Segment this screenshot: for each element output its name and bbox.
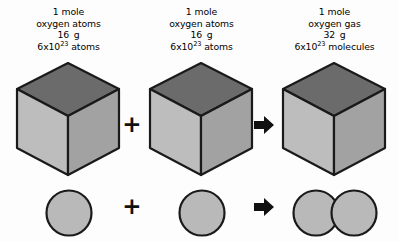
label-mass-unit: g <box>340 29 346 40</box>
label-mass-value: 16 <box>57 29 69 40</box>
label-count-coefficient: 6x10 <box>170 41 193 52</box>
label-count-unit: molecules <box>328 41 374 52</box>
product-column: 1 mole oxygen gas 32 g 6x1023 molecules <box>272 0 397 242</box>
mole-cube-oxygen-gas <box>279 60 389 178</box>
label-line-substance: oxygen gas <box>272 18 397 30</box>
label-line-amount: 1 mole <box>272 6 397 18</box>
label-count-coefficient: 6x10 <box>294 41 317 52</box>
mole-cube-oxygen-atoms-1 <box>13 60 123 178</box>
label-line-mass: 32 g <box>272 29 397 41</box>
label-line-mass: 16 g <box>6 29 131 41</box>
label-line-count: 6x1023 atoms <box>6 41 131 55</box>
label-count-coefficient: 6x10 <box>37 41 60 52</box>
particle-group-1 <box>6 188 131 240</box>
reactant-column-1: 1 mole oxygen atoms 16 g 6x1023 atoms <box>6 0 131 242</box>
label-line-count: 6x1023 atoms <box>139 41 264 55</box>
plus-sign-top: + <box>118 110 146 138</box>
label-mass-unit: g <box>207 29 213 40</box>
particle-group-2 <box>139 188 264 240</box>
label-count-exponent: 23 <box>193 40 201 48</box>
mole-label-1: 1 mole oxygen atoms 16 g 6x1023 atoms <box>6 6 131 54</box>
label-line-amount: 1 mole <box>6 6 131 18</box>
label-line-substance: oxygen atoms <box>6 18 131 30</box>
label-count-exponent: 23 <box>60 40 68 48</box>
mole-label-2: 1 mole oxygen atoms 16 g 6x1023 atoms <box>139 6 264 54</box>
label-count-unit: atoms <box>71 41 99 52</box>
label-line-substance: oxygen atoms <box>139 18 264 30</box>
label-line-mass: 16 g <box>139 29 264 41</box>
plus-sign-bottom: + <box>118 192 146 220</box>
label-line-amount: 1 mole <box>139 6 264 18</box>
arrow-right-icon-bottom <box>250 192 278 217</box>
mole-cube-oxygen-atoms-2 <box>146 60 256 178</box>
reactant-column-2: 1 mole oxygen atoms 16 g 6x1023 atoms <box>139 0 264 242</box>
mole-label-3: 1 mole oxygen gas 32 g 6x1023 molecules <box>272 6 397 54</box>
label-mass-value: 32 <box>323 29 335 40</box>
label-line-count: 6x1023 molecules <box>272 41 397 55</box>
arrow-right-icon-top <box>250 110 278 135</box>
particle-group-3 <box>272 188 397 240</box>
label-mass-value: 16 <box>190 29 202 40</box>
label-count-unit: atoms <box>204 41 232 52</box>
label-mass-unit: g <box>74 29 80 40</box>
mole-concept-diagram: 1 mole oxygen atoms 16 g 6x1023 atoms 1 … <box>0 0 399 242</box>
label-count-exponent: 23 <box>317 40 325 48</box>
